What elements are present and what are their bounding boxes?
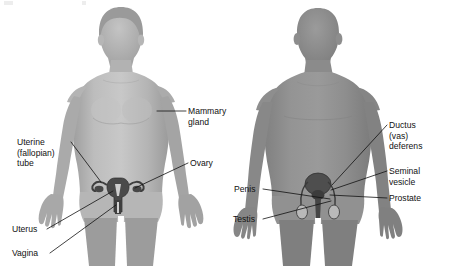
male-leg-gap <box>315 218 321 266</box>
diagram-canvas: Mammary gland Uterine (fallopian) tube O… <box>0 0 449 275</box>
female-ear-right <box>138 35 144 46</box>
label-testis: Testis <box>233 214 255 224</box>
label-line: Ovary <box>190 158 214 168</box>
label-line: Mammary <box>188 106 227 116</box>
label-line: Penis <box>234 184 256 194</box>
label-line: Vagina <box>12 248 38 258</box>
female-leg-right <box>125 218 158 266</box>
label-ductus-vas-deferens: Ductus (vas) deferens <box>389 120 422 151</box>
label-mammary-gland: Mammary gland <box>188 106 229 127</box>
male-leg-left <box>279 220 314 266</box>
ovary-left <box>95 186 104 192</box>
label-seminal-vesicle: Seminal vesicle <box>389 166 422 187</box>
testis-right <box>329 205 340 219</box>
label-uterus: Uterus <box>12 224 37 234</box>
label-prostate: Prostate <box>389 193 421 203</box>
female-hand-left <box>39 194 64 228</box>
male-ear-left <box>294 33 301 45</box>
female-neck <box>109 60 133 74</box>
label-line: Prostate <box>389 193 421 203</box>
testis-left <box>297 205 308 219</box>
label-line: vesicle <box>389 177 415 187</box>
label-line: gland <box>188 117 209 127</box>
male-head <box>297 8 339 67</box>
female-hand-right <box>178 194 203 228</box>
label-line: Uterus <box>12 224 37 234</box>
label-line: Testis <box>233 214 255 224</box>
male-leg-right <box>322 220 358 266</box>
female-ear-left <box>98 35 104 46</box>
male-body-silhouette <box>234 8 403 266</box>
label-ovary: Ovary <box>190 158 214 168</box>
label-line: Uterine <box>17 137 45 147</box>
anatomy-diagram: Mammary gland Uterine (fallopian) tube O… <box>0 0 449 275</box>
vaginal-canal <box>117 202 119 213</box>
male-hand-right <box>379 207 403 239</box>
label-vagina: Vagina <box>12 248 38 258</box>
female-leg-gap <box>118 216 124 266</box>
female-leg-left <box>84 218 117 266</box>
female-breast-left <box>91 97 121 123</box>
label-line: tube <box>17 158 34 168</box>
female-torso <box>73 72 170 196</box>
male-ear-right <box>336 33 343 45</box>
label-line: Seminal <box>389 166 420 176</box>
label-line: Ductus <box>389 120 416 130</box>
label-line: deferens <box>389 141 422 151</box>
prostate-organ <box>312 190 325 200</box>
female-body-silhouette <box>39 7 204 266</box>
label-line: (fallopian) <box>17 148 55 158</box>
penis-organ <box>315 199 321 218</box>
label-uterine-fallopian-tube: Uterine (fallopian) tube <box>17 137 57 168</box>
label-penis: Penis <box>234 184 256 194</box>
label-line: (vas) <box>389 131 408 141</box>
